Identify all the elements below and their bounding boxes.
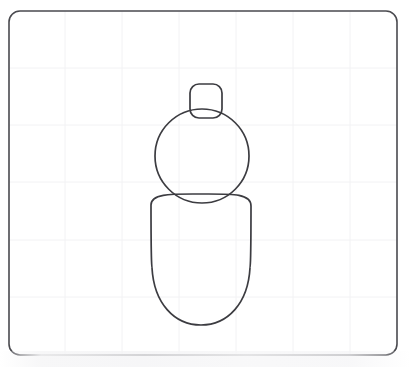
shape-head[interactable] bbox=[155, 109, 249, 203]
drawing-app-root bbox=[0, 0, 411, 367]
shape-hat[interactable] bbox=[190, 84, 222, 118]
drawing-scene[interactable] bbox=[0, 0, 411, 367]
drawing-canvas[interactable] bbox=[0, 0, 411, 367]
grid-layer bbox=[9, 11, 397, 355]
canvas-border bbox=[9, 11, 397, 355]
